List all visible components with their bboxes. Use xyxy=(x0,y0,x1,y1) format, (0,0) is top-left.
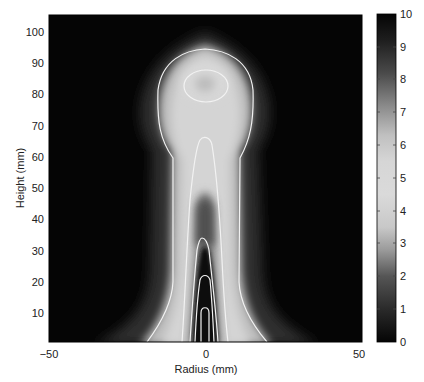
y-tick-label: 90 xyxy=(32,57,44,69)
colorbar-tick-label: 0 xyxy=(400,336,406,348)
x-tick-label: 50 xyxy=(353,348,365,360)
y-axis: 10 20 30 40 50 60 70 80 90 100 Height (m… xyxy=(14,26,44,319)
x-axis: −50 0 50 Radius (mm) xyxy=(40,348,365,375)
colorbar: 0 1 2 3 4 5 6 7 8 9 10 xyxy=(377,8,412,348)
y-tick-label: 30 xyxy=(32,245,44,257)
y-tick-label: 60 xyxy=(32,151,44,163)
colorbar-tick-label: 3 xyxy=(400,237,406,249)
y-tick-label: 100 xyxy=(26,26,44,38)
y-tick-label: 70 xyxy=(32,120,44,132)
colorbar-tick-label: 6 xyxy=(400,139,406,151)
x-tick-label: 0 xyxy=(203,348,209,360)
colorbar-tick-label: 10 xyxy=(400,8,412,20)
colorbar-tick-label: 1 xyxy=(400,303,406,315)
colorbar-tick-label: 2 xyxy=(400,270,406,282)
figure: 10 20 30 40 50 60 70 80 90 100 Height (m… xyxy=(0,0,424,382)
colorbar-tick-label: 4 xyxy=(400,205,406,217)
y-tick-label: 20 xyxy=(32,276,44,288)
colorbar-tick-label: 9 xyxy=(400,41,406,53)
y-tick-label: 50 xyxy=(32,182,44,194)
colorbar-tick-label: 8 xyxy=(400,73,406,85)
colorbar-tick-label: 7 xyxy=(400,106,406,118)
y-axis-label: Height (mm) xyxy=(14,148,26,209)
y-tick-label: 10 xyxy=(32,307,44,319)
colorbar-tick-label: 5 xyxy=(400,172,406,184)
heatmap-plot xyxy=(49,15,362,345)
y-tick-label: 80 xyxy=(32,88,44,100)
x-axis-label: Radius (mm) xyxy=(175,363,238,375)
x-tick-label: −50 xyxy=(40,348,59,360)
y-tick-label: 40 xyxy=(32,213,44,225)
